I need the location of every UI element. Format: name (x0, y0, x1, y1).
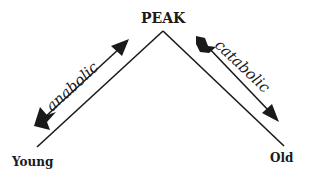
life-cycle-diagram: anabolic catabolic PEAK Young Old (0, 0, 309, 178)
anabolic-label: anabolic (43, 58, 103, 115)
catabolic-label: catabolic (211, 36, 274, 97)
old-label: Old (270, 151, 294, 165)
young-label: Young (11, 155, 54, 169)
peak-label: PEAK (141, 10, 186, 26)
